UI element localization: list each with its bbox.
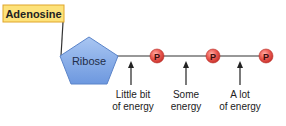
energy-annotation-1: Little bit of energy: [112, 89, 154, 112]
annotation-line-1: Little bit: [116, 89, 151, 100]
energy-arrow-3: [237, 61, 243, 85]
energy-annotation-3: A lot of energy: [219, 89, 261, 112]
adenosine-label: Adenosine: [5, 8, 61, 20]
annotation-line-2: of energy: [112, 101, 154, 112]
annotation-line-2: energy: [171, 101, 202, 112]
phosphate-label: P: [210, 52, 216, 62]
ribose-label: Ribose: [72, 55, 106, 67]
energy-arrow-2: [183, 61, 189, 85]
phosphate-label: P: [263, 52, 269, 62]
energy-arrow-1: [128, 61, 134, 85]
arrow-up-icon: [128, 61, 134, 68]
annotation-line-1: A lot: [230, 89, 250, 100]
annotation-line-1: Some: [173, 89, 200, 100]
arrow-up-icon: [183, 61, 189, 68]
energy-annotation-2: Some energy: [171, 89, 202, 112]
atp-diagram: Ribose Adenosine P P P Little bit of ene…: [0, 0, 286, 126]
arrow-up-icon: [237, 61, 243, 68]
phosphate-group-1: P: [150, 49, 164, 63]
phosphate-group-3: P: [259, 49, 273, 63]
phosphate-group-2: P: [206, 49, 220, 63]
adenosine-label-box: Adenosine: [3, 5, 64, 22]
ribose-sugar: Ribose: [60, 37, 118, 84]
phosphate-label: P: [154, 52, 160, 62]
adenosine-connector-line: [61, 22, 63, 56]
annotation-line-2: of energy: [219, 101, 261, 112]
